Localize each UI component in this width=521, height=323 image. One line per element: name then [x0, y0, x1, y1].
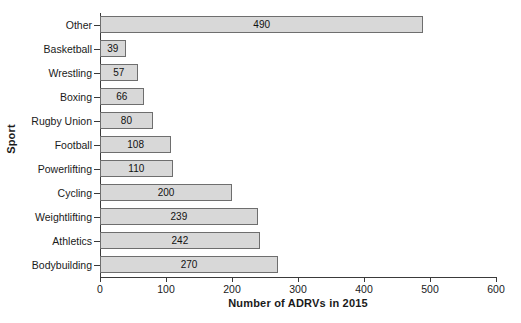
y-axis-tick: [94, 193, 100, 194]
x-axis-tick: [100, 277, 101, 282]
bar-value-label: 66: [100, 88, 144, 105]
x-axis-title: Number of ADRVs in 2015: [100, 297, 496, 309]
bar-row: 270: [100, 253, 496, 277]
x-axis-tick-label: 100: [143, 283, 189, 295]
y-axis-tick: [94, 121, 100, 122]
bar-value-label: 39: [100, 40, 126, 57]
bar-value-label: 270: [100, 256, 278, 273]
bar-value-label: 108: [100, 136, 171, 153]
x-axis-tick: [430, 277, 431, 282]
x-axis-tick-label: 0: [77, 283, 123, 295]
bar-value-label: 490: [100, 16, 423, 33]
y-axis-tick: [94, 217, 100, 218]
bar-row: 200: [100, 181, 496, 205]
bar-value-label: 200: [100, 184, 232, 201]
y-axis-tick: [94, 169, 100, 170]
category-label: Football: [0, 133, 92, 157]
category-label: Powerlifting: [0, 157, 92, 181]
x-axis-tick-label: 500: [407, 283, 453, 295]
bar-row: 108: [100, 133, 496, 157]
x-axis-tick-label: 600: [473, 283, 519, 295]
category-label: Bodybuilding: [0, 253, 92, 277]
x-axis-tick: [232, 277, 233, 282]
bar-row: 80: [100, 109, 496, 133]
plot-area: 49039576680108110200239242270: [100, 13, 496, 277]
bar-row: 110: [100, 157, 496, 181]
y-axis-tick: [94, 49, 100, 50]
bar-row: 66: [100, 85, 496, 109]
x-axis-tick-label: 400: [341, 283, 387, 295]
bar-value-label: 80: [100, 112, 153, 129]
y-axis-tick: [94, 73, 100, 74]
bar-value-label: 57: [100, 64, 138, 81]
y-axis-tick: [94, 25, 100, 26]
category-label: Other: [0, 13, 92, 37]
category-label: Athletics: [0, 229, 92, 253]
category-label: Basketball: [0, 37, 92, 61]
bar-value-label: 239: [100, 208, 258, 225]
bar-row: 57: [100, 61, 496, 85]
bar-row: 239: [100, 205, 496, 229]
y-axis-tick: [94, 97, 100, 98]
y-axis-tick: [94, 265, 100, 266]
bar-value-label: 242: [100, 232, 260, 249]
category-label: Weightlifting: [0, 205, 92, 229]
category-label: Boxing: [0, 85, 92, 109]
y-axis-tick: [94, 145, 100, 146]
category-label: Wrestling: [0, 61, 92, 85]
x-axis-tick: [298, 277, 299, 282]
category-label: Rugby Union: [0, 109, 92, 133]
bar-row: 39: [100, 37, 496, 61]
bar-row: 490: [100, 13, 496, 37]
bar-row: 242: [100, 229, 496, 253]
x-axis-tick: [166, 277, 167, 282]
x-axis-tick-label: 300: [275, 283, 321, 295]
x-axis-tick: [496, 277, 497, 282]
x-axis-tick-label: 200: [209, 283, 255, 295]
x-axis-tick: [364, 277, 365, 282]
bar-value-label: 110: [100, 160, 173, 177]
category-axis-labels: OtherBasketballWrestlingBoxingRugby Unio…: [0, 13, 92, 277]
category-label: Cycling: [0, 181, 92, 205]
bar-chart: Sport OtherBasketballWrestlingBoxingRugb…: [0, 0, 521, 323]
y-axis-tick: [94, 241, 100, 242]
